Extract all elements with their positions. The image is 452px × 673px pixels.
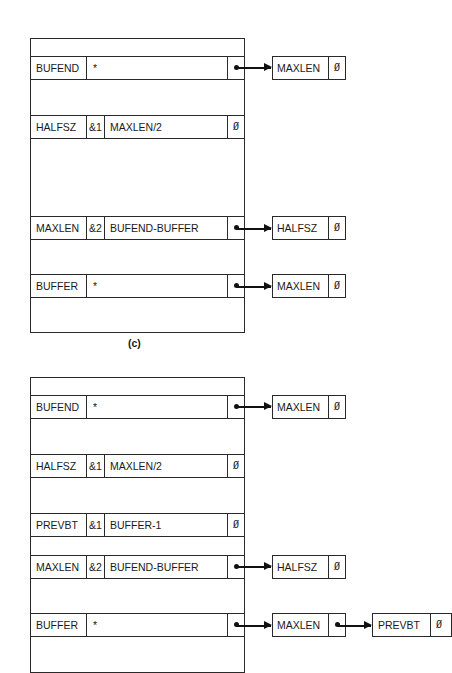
null-link: Ø (328, 396, 346, 418)
ref-name: MAXLEN (277, 396, 329, 418)
symbol-flag: &2 (86, 217, 104, 239)
symbol-flag: &1 (86, 455, 104, 477)
symbol-expr: * (86, 614, 227, 636)
symbol-row-halfsz: HALFSZ &1 MAXLEN/2 Ø (30, 454, 245, 478)
symbol-row-bufend: BUFEND * (30, 395, 245, 419)
symbol-expr: BUFEND-BUFFER (104, 217, 227, 239)
symbol-name: BUFFER (36, 275, 86, 297)
ref-box-maxlen: MAXLEN Ø (272, 395, 346, 419)
arrow-icon (236, 406, 271, 408)
symbol-row-bufend: BUFEND * (30, 56, 245, 80)
ref-name: MAXLEN (277, 275, 329, 297)
ref-name: MAXLEN (277, 614, 329, 636)
symbol-table-frame-d: BUFEND * HALFSZ &1 MAXLEN/2 Ø PREVBT &1 … (30, 377, 245, 673)
null-link: Ø (227, 455, 245, 477)
symbol-table-frame-c: BUFEND * HALFSZ &1 MAXLEN/2 Ø MAXLEN &2 … (30, 38, 245, 333)
ref-name: HALFSZ (277, 217, 329, 239)
symbol-expr: BUFFER-1 (104, 514, 227, 536)
symbol-flag: &1 (86, 116, 104, 138)
symbol-flag: &2 (86, 556, 104, 578)
arrow-icon (236, 67, 271, 69)
ref-name: PREVBT (378, 614, 430, 636)
symbol-expr: BUFEND-BUFFER (104, 556, 227, 578)
null-link: Ø (328, 556, 346, 578)
figure-caption: (c) (128, 337, 141, 349)
symbol-name: BUFFER (36, 614, 86, 636)
symbol-row-buffer: BUFFER * (30, 274, 245, 298)
symbol-expr: * (86, 275, 227, 297)
ref-name: HALFSZ (277, 556, 329, 578)
null-link: Ø (328, 275, 346, 297)
symbol-flag: &1 (86, 514, 104, 536)
symbol-name: PREVBT (36, 514, 86, 536)
ref-name: MAXLEN (277, 57, 329, 79)
symbol-expr: * (86, 396, 227, 418)
arrow-icon (236, 625, 271, 627)
ref-box-halfsz: HALFSZ Ø (272, 555, 346, 579)
null-link: Ø (227, 116, 245, 138)
arrow-icon (337, 625, 371, 627)
symbol-row-halfsz: HALFSZ &1 MAXLEN/2 Ø (30, 115, 245, 139)
symbol-row-maxlen: MAXLEN &2 BUFEND-BUFFER (30, 555, 245, 579)
symbol-expr: * (86, 57, 227, 79)
arrow-icon (236, 286, 271, 288)
symbol-name: HALFSZ (36, 455, 86, 477)
arrow-icon (236, 566, 271, 568)
symbol-expr: MAXLEN/2 (104, 116, 227, 138)
ref-box-maxlen: MAXLEN Ø (272, 274, 346, 298)
null-link: Ø (328, 57, 346, 79)
symbol-row-buffer: BUFFER * (30, 613, 245, 637)
symbol-expr: MAXLEN/2 (104, 455, 227, 477)
ref-box-prevbt: PREVBT Ø (372, 613, 452, 637)
symbol-row-maxlen: MAXLEN &2 BUFEND-BUFFER (30, 216, 245, 240)
null-link: Ø (328, 217, 346, 239)
symbol-name: MAXLEN (36, 217, 86, 239)
symbol-name: HALFSZ (36, 116, 86, 138)
symbol-row-prevbt: PREVBT &1 BUFFER-1 Ø (30, 513, 245, 537)
arrow-icon (236, 228, 271, 230)
symbol-name: BUFEND (36, 57, 86, 79)
null-link: Ø (430, 614, 448, 636)
ref-box-maxlen: MAXLEN Ø (272, 56, 346, 80)
symbol-name: MAXLEN (36, 556, 86, 578)
ref-box-maxlen: MAXLEN (272, 613, 346, 637)
ref-box-halfsz: HALFSZ Ø (272, 216, 346, 240)
null-link: Ø (227, 514, 245, 536)
symbol-name: BUFEND (36, 396, 86, 418)
